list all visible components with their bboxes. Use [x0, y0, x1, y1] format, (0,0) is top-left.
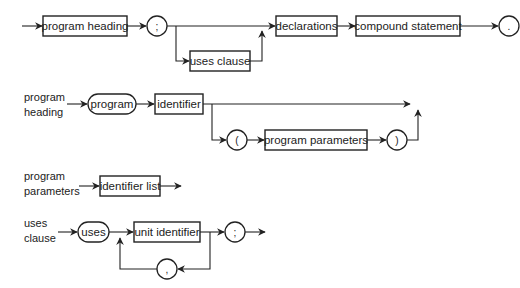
program-heading-diagram: program heading program identifier ( pro…	[24, 91, 418, 150]
program-heading-title-line2: heading	[24, 106, 63, 118]
comma-symbol: ,	[166, 264, 169, 275]
declarations-label: declarations	[275, 20, 337, 32]
uses-clause-title-line1: uses	[24, 217, 48, 229]
close-paren-terminal: )	[387, 130, 407, 150]
comma-terminal: ,	[157, 259, 177, 279]
semicolon-terminal-2: ;	[225, 222, 245, 242]
identifier-list-box: identifier list	[100, 176, 162, 196]
program-heading-title-line1: program	[24, 91, 65, 103]
uses-clause-label: uses clause	[190, 55, 251, 67]
open-paren-terminal: (	[227, 130, 247, 150]
identifier-box: identifier	[155, 94, 203, 114]
semicolon-terminal: ;	[147, 16, 167, 36]
program-parameters-box: program parameters	[264, 130, 368, 150]
uses-clause-title-line2: clause	[24, 232, 56, 244]
program-heading-label: program heading	[42, 20, 129, 32]
program-keyword-label: program	[91, 98, 134, 110]
semicolon-symbol-2: ;	[234, 227, 237, 238]
uses-keyword-terminal: uses	[78, 222, 109, 242]
unit-identifier-label: unit identifier	[134, 226, 199, 238]
program-keyword-terminal: program	[88, 94, 136, 114]
uses-keyword-label: uses	[81, 226, 106, 238]
semicolon-symbol: ;	[156, 21, 159, 32]
syntax-diagram-canvas: program heading ; uses clause declaratio…	[0, 0, 520, 288]
program-parameters-diagram: program parameters identifier list	[24, 170, 181, 197]
compound-statement-label: compound statement	[354, 20, 462, 32]
close-paren-symbol: )	[395, 135, 398, 146]
unit-identifier-box: unit identifier	[134, 222, 200, 242]
program-heading-box: program heading	[42, 16, 129, 36]
program-diagram: program heading ; uses clause declaratio…	[22, 16, 519, 71]
period-terminal: .	[499, 16, 519, 36]
uses-clause-box: uses clause	[190, 51, 251, 71]
declarations-box: declarations	[275, 16, 337, 36]
period-symbol: .	[508, 21, 511, 32]
program-parameters-title-line1: program	[24, 170, 65, 182]
identifier-list-label: identifier list	[100, 180, 162, 192]
uses-clause-diagram: uses clause uses unit identifier ; ,	[24, 217, 265, 279]
program-parameters-title-line2: parameters	[24, 185, 80, 197]
identifier-label: identifier	[157, 98, 201, 110]
compound-statement-box: compound statement	[354, 16, 462, 36]
program-parameters-label: program parameters	[264, 134, 368, 146]
